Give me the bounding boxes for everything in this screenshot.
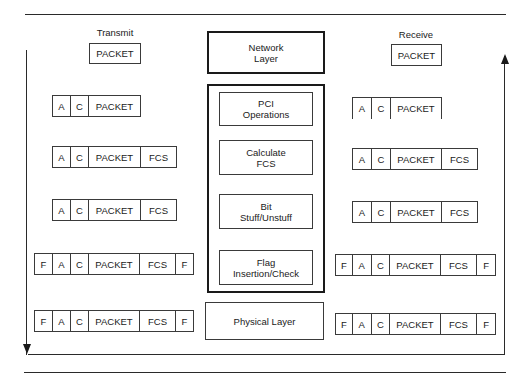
field-a: A [53,96,71,116]
arrow-up-icon [501,54,509,64]
field-a: A [53,254,71,274]
receive-frame-2: A C PACKET FCS [352,148,478,170]
receive-frame-4: F A C PACKET FCS F [335,254,496,276]
field-packet: PACKET [89,254,140,274]
receive-title: Receive [386,29,446,40]
transmit-frame-4: F A C PACKET FCS F [34,253,194,275]
stack-label: Calculate [246,147,286,158]
field-fcs: FCS [441,314,478,334]
field-a: A [353,149,372,169]
transmit-frame-2: A C PACKET FCS [52,146,177,168]
field-packet: PACKET [390,255,440,275]
stack-label: Stuff/Unstuff [240,212,292,223]
field-c: C [372,149,391,169]
field-a: A [353,202,372,222]
field-c: C [71,200,89,220]
physical-layer-box: Physical Layer [205,302,324,340]
field-packet: PACKET [391,98,441,119]
field-packet: PACKET [89,147,141,167]
field-a: A [53,147,71,167]
field-c: C [372,202,391,222]
transmit-title: Transmit [85,27,145,38]
field-c: C [71,96,89,116]
bottom-rule [24,372,506,373]
field-fcs: FCS [441,255,478,275]
stack-label: PCI [258,98,274,109]
field-fcs: FCS [442,149,477,169]
field-c: C [372,98,391,119]
field-fcs: FCS [140,254,176,274]
transmit-frame-3: A C PACKET FCS [52,199,177,221]
stack-label: Flag [257,257,275,268]
flag-insertion-box: Flag Insertion/Check [219,250,313,285]
receive-top-packet: PACKET [391,44,442,66]
field-packet: PACKET [89,200,141,220]
field-c: C [372,314,391,334]
field-flag: F [336,255,353,275]
transmit-frame-1: A C PACKET [52,95,141,117]
transmit-top-packet: PACKET [89,43,141,64]
stack-label: Insertion/Check [233,268,299,279]
field-a: A [353,314,372,334]
field-c: C [372,255,391,275]
calculate-fcs-box: Calculate FCS [219,140,313,175]
field-packet: PACKET [89,311,140,331]
bit-stuff-box: Bit Stuff/Unstuff [219,194,313,229]
network-layer-line1: Network [249,42,284,53]
receive-frame-1: A C PACKET [352,97,442,119]
field-c: C [71,311,89,331]
arrow-down-icon [23,344,31,354]
field-flag: F [176,311,193,331]
receive-flow-line [504,56,505,355]
field-flag: F [336,314,353,334]
receive-frame-3: A C PACKET FCS [352,201,478,223]
top-rule [25,14,506,15]
bottom-flow-line [28,354,505,355]
field-a: A [353,255,372,275]
field-packet: PACKET [391,202,442,222]
field-fcs: FCS [141,200,176,220]
field-packet: PACKET [390,314,440,334]
field-fcs: FCS [141,147,176,167]
field-flag: F [477,255,495,275]
field-flag: F [477,314,495,334]
stack-label: Bit [260,201,271,212]
field-c: C [71,147,89,167]
transmit-frame-5: F A C PACKET FCS F [34,310,194,332]
field-packet: PACKET [391,149,442,169]
field-flag: F [35,254,53,274]
field-c: C [71,254,89,274]
field-packet: PACKET [89,96,140,116]
field-fcs: FCS [140,311,176,331]
field-a: A [53,200,71,220]
stack-label: FCS [257,158,276,169]
stack-label: Operations [243,109,289,120]
field-a: A [53,311,71,331]
field-flag: F [35,311,53,331]
network-layer-box: Network Layer [207,31,325,74]
pci-operations-box: PCI Operations [219,92,313,126]
network-layer-line2: Layer [254,53,278,64]
field-flag: F [176,254,193,274]
field-a: A [353,98,372,119]
field-fcs: FCS [442,202,477,222]
receive-frame-5: F A C PACKET FCS F [335,313,496,335]
transmit-flow-line [26,50,27,355]
